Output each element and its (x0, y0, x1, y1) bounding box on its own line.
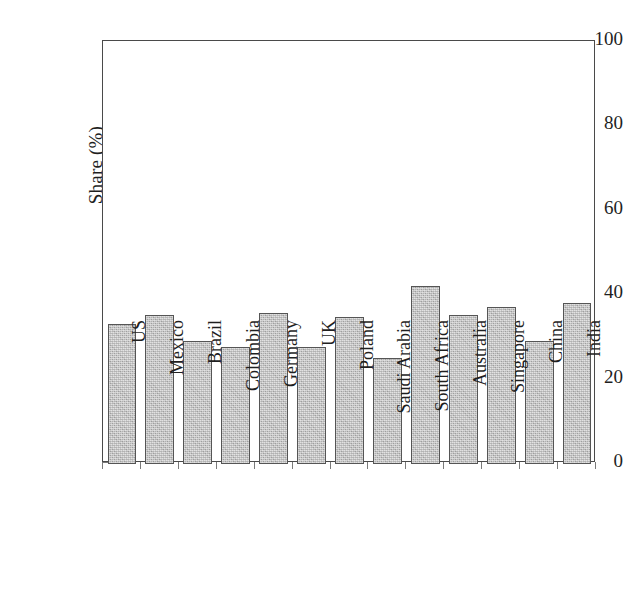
x-axis-category-label: Colombia (243, 320, 263, 470)
x-axis-category-label-text: Saudi Arabia (394, 320, 414, 470)
x-axis-category-label: Germany (281, 320, 301, 470)
y-axis-tick-label-text: 80 (604, 113, 631, 132)
x-axis-category-label: Brazil (205, 320, 225, 470)
x-axis-category-label: Saudi Arabia (394, 320, 414, 470)
y-axis-tick-label-text: 100 (595, 29, 631, 48)
x-axis-category-label-text: South Africa (432, 320, 452, 470)
y-axis-tick-label-text: 20 (604, 367, 631, 386)
x-axis-category-label-text: US (129, 320, 149, 470)
x-axis-category-label: South Africa (432, 320, 452, 470)
x-axis-category-label-text: Colombia (243, 320, 263, 470)
x-axis-category-label-text: Poland (357, 320, 377, 470)
x-axis-category-label-text: India (584, 320, 604, 470)
y-axis-tick-label-text: 60 (604, 198, 631, 217)
x-axis-category-label-text: Singapore (508, 320, 528, 470)
x-axis-category-label: Poland (357, 320, 377, 470)
x-axis-category-label: China (546, 320, 566, 470)
x-axis-category-label: Mexico (167, 320, 187, 470)
bar-chart-figure: Share (%) 020406080100 USMexicoBrazilCol… (0, 0, 631, 605)
x-axis-category-label: UK (319, 320, 339, 470)
x-axis-category-label-text: China (546, 320, 566, 470)
x-axis-category-label-text: Australia (470, 320, 490, 470)
x-axis-tick (102, 462, 103, 469)
x-axis-category-label-text: Germany (281, 320, 301, 470)
x-axis-category-label-text: UK (319, 320, 339, 470)
y-axis-tick-label-text: 40 (604, 282, 631, 301)
x-axis-category-label-text: Mexico (167, 320, 187, 470)
y-axis-tick-label-text: 0 (614, 451, 631, 470)
x-axis-category-label: Singapore (508, 320, 528, 470)
x-axis-category-label: US (129, 320, 149, 470)
x-axis-category-label: India (584, 320, 604, 470)
x-axis-category-label-text: Brazil (205, 320, 225, 470)
x-axis-category-label: Australia (470, 320, 490, 470)
